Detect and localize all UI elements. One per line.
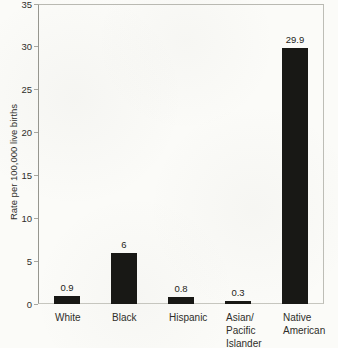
y-axis-title: Rate per 100,000 live births: [8, 104, 19, 220]
y-tick-label: 20: [10, 127, 32, 138]
bar-value-label: 0.3: [213, 287, 263, 298]
y-tick-mark: [34, 46, 38, 47]
y-tick-mark: [34, 218, 38, 219]
bar-value-label: 29.9: [270, 34, 320, 45]
y-tick-mark: [34, 4, 38, 5]
y-tick-label: 35: [10, 0, 32, 10]
bar-value-label: 0.8: [156, 283, 206, 294]
y-tick-mark: [34, 304, 38, 305]
y-tick-label: 30: [10, 41, 32, 52]
x-category-label: Native American: [283, 311, 338, 337]
y-tick-label: 25: [10, 84, 32, 95]
x-category-label: Black: [112, 311, 174, 324]
bar: [111, 253, 137, 304]
y-tick-mark: [34, 132, 38, 133]
y-tick-label: 0: [10, 299, 32, 310]
y-tick-mark: [34, 89, 38, 90]
bar: [168, 297, 194, 304]
y-tick-label: 15: [10, 170, 32, 181]
y-tick-mark: [34, 175, 38, 176]
bar: [282, 48, 308, 304]
x-category-label: Asian/ Pacific Islander: [226, 311, 288, 348]
x-category-label: White: [55, 311, 117, 324]
y-tick-mark: [34, 261, 38, 262]
bar: [225, 301, 251, 304]
bar-value-label: 0.9: [42, 282, 92, 293]
bar-chart: Rate per 100,000 live births 05101520253…: [0, 0, 338, 348]
y-tick-label: 5: [10, 256, 32, 267]
bar-value-label: 6: [99, 239, 149, 250]
bar: [54, 296, 80, 304]
y-tick-label: 10: [10, 213, 32, 224]
x-category-label: Hispanic: [169, 311, 231, 324]
